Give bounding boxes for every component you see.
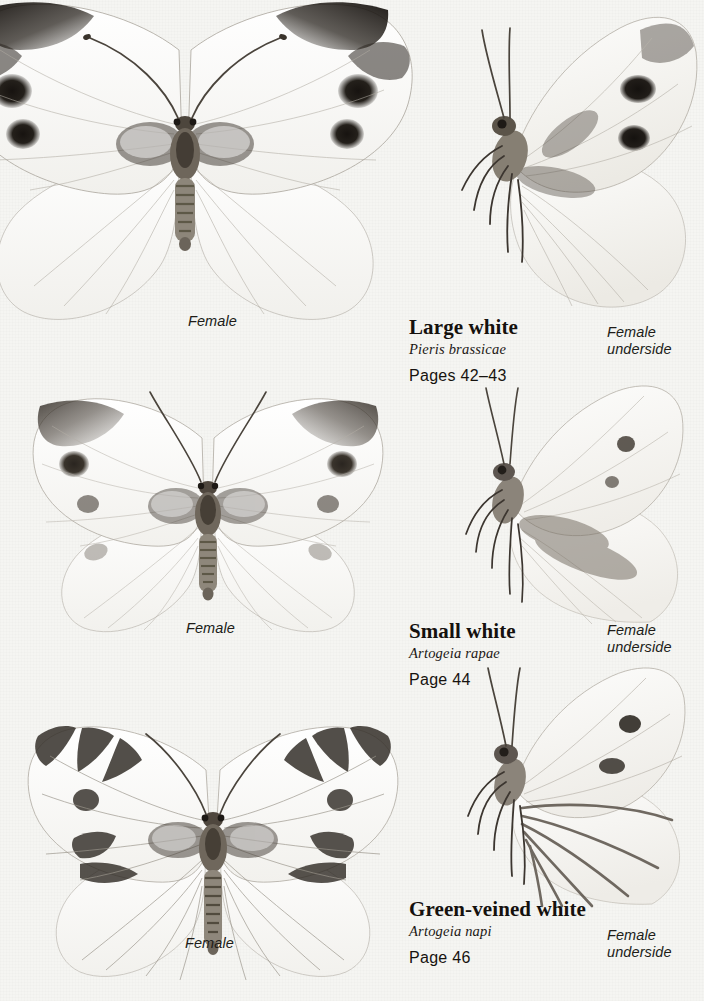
species-page-reference[interactable]: Page 46 xyxy=(409,949,586,967)
caption-line-1: Female xyxy=(607,324,672,341)
illustration-plate: Large white Pieris brassicae Pages 42–43… xyxy=(0,0,704,1001)
caption-large-white-female-underside: Female underside xyxy=(607,324,672,359)
figure-green-veined-white-female-underside xyxy=(460,668,704,906)
species-page-reference[interactable]: Pages 42–43 xyxy=(409,367,518,385)
caption-line-2: underside xyxy=(607,639,672,656)
guide-page: Large white Pieris brassicae Pages 42–43… xyxy=(0,0,704,1001)
figure-large-white-female-underside xyxy=(452,14,704,314)
caption-small-white-female-underside: Female underside xyxy=(607,622,672,657)
caption-green-veined-white-female-underside: Female underside xyxy=(607,927,672,962)
species-latin-name: Artogeia napi xyxy=(409,923,586,940)
species-common-name: Large white xyxy=(409,316,518,338)
figure-small-white-female-underside xyxy=(460,388,704,624)
species-latin-name: Artogeia rapae xyxy=(409,645,516,662)
caption-line-2: underside xyxy=(607,944,672,961)
caption-small-white-female: Female xyxy=(186,620,235,638)
caption-green-veined-white-female: Female xyxy=(185,935,234,953)
caption-line-2: underside xyxy=(607,341,672,358)
species-common-name: Green-veined white xyxy=(409,898,586,920)
figure-large-white-female-upperside xyxy=(0,0,410,324)
species-block-large-white: Large white Pieris brassicae Pages 42–43 xyxy=(409,316,518,385)
species-block-green-veined-white: Green-veined white Artogeia napi Page 46 xyxy=(409,898,586,967)
caption-line-1: Female xyxy=(607,927,672,944)
figure-small-white-female-upperside xyxy=(18,392,398,630)
species-common-name: Small white xyxy=(409,620,516,642)
caption-line-1: Female xyxy=(607,622,672,639)
caption-large-white-female: Female xyxy=(188,313,237,331)
species-latin-name: Pieris brassicae xyxy=(409,341,518,358)
